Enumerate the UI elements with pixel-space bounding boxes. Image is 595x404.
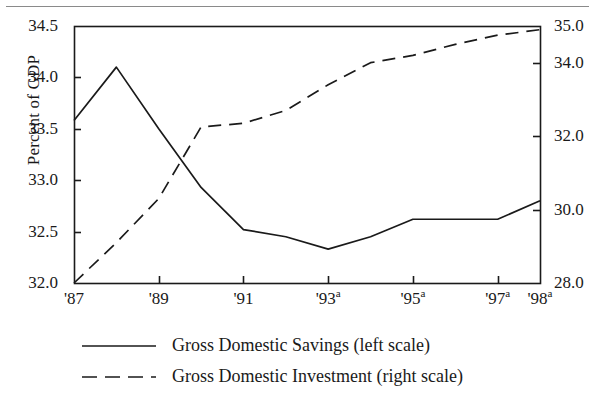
legend-label-investment: Gross Domestic Investment (right scale) — [172, 366, 463, 387]
axis-ticks — [74, 64, 540, 284]
chart-legend: Gross Domestic Savings (left scale) Gros… — [80, 330, 540, 392]
chart-figure: Percent of GDP 32.032.533.033.534.034.5 … — [0, 0, 595, 404]
legend-label-savings: Gross Domestic Savings (left scale) — [172, 335, 430, 356]
legend-swatch-solid — [80, 340, 158, 352]
legend-item-investment: Gross Domestic Investment (right scale) — [80, 361, 540, 392]
legend-swatch-dashed — [80, 371, 158, 383]
legend-item-savings: Gross Domestic Savings (left scale) — [80, 330, 540, 361]
series-line-0 — [74, 67, 540, 249]
data-series — [74, 30, 540, 283]
series-line-1 — [74, 30, 540, 283]
plot-frame — [75, 27, 541, 284]
